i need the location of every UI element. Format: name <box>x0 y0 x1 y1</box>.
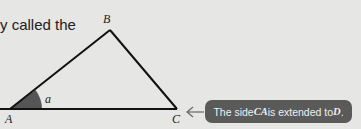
side-BC <box>110 30 177 109</box>
angle-label-a: a <box>45 92 51 107</box>
callout-text-middle: is extended to <box>268 106 333 118</box>
callout-text-prefix: The side <box>213 106 253 118</box>
callout-text-suffix: . <box>341 106 344 118</box>
arrow-left-icon <box>187 107 204 117</box>
callout-point: D <box>333 106 341 117</box>
callout-note: The side CA is extended to D . <box>205 100 352 123</box>
side-AB <box>10 30 110 109</box>
callout-segment: CA <box>254 106 268 117</box>
vertex-label-b: B <box>103 12 110 27</box>
vertex-label-c: C <box>172 112 180 127</box>
vertex-label-a: A <box>5 112 12 127</box>
